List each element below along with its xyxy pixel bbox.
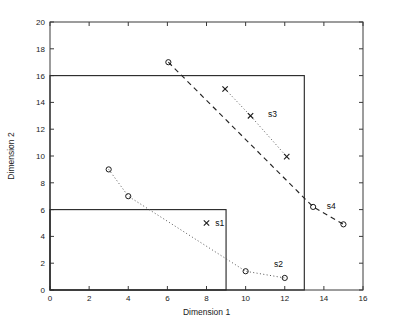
y-tick-label: 16 [36,72,45,81]
x-tick-label: 10 [241,294,250,303]
y-tick-label: 14 [36,98,45,107]
y-tick-label: 0 [41,286,46,295]
y-tick-label: 20 [36,18,45,27]
scatter-plot-svg: 0246810121416 02468101214161820 s1s2s3s4… [0,0,393,327]
y-axis-label: Dimension 2 [6,132,16,180]
x-axis-label: Dimension 1 [183,307,231,317]
y-tick-label: 2 [41,259,46,268]
x-tick-label: 14 [319,294,328,303]
series-label-s2: s2 [274,259,283,269]
series-label-s1: s1 [215,218,224,228]
series-label-s4: s4 [327,201,336,211]
y-tick-label: 18 [36,45,45,54]
series-label-s3: s3 [268,109,277,119]
figure-background [0,0,393,327]
x-tick-label: 0 [48,294,53,303]
chart-figure: 0246810121416 02468101214161820 s1s2s3s4… [0,0,393,327]
y-tick-label: 6 [41,206,46,215]
x-tick-label: 8 [204,294,209,303]
x-tick-label: 4 [126,294,131,303]
x-tick-label: 12 [280,294,289,303]
x-tick-label: 2 [87,294,92,303]
y-tick-label: 12 [36,125,45,134]
y-tick-label: 8 [41,179,46,188]
y-tick-label: 4 [41,232,46,241]
x-tick-label: 6 [165,294,170,303]
x-tick-label: 16 [359,294,368,303]
y-tick-label: 10 [36,152,45,161]
